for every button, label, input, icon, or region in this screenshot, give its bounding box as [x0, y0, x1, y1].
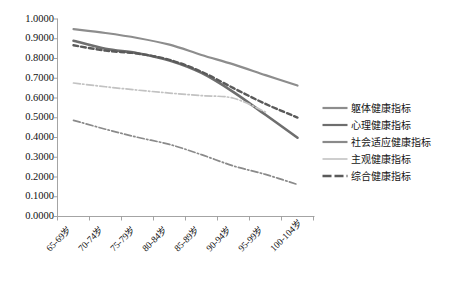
series-line	[74, 29, 298, 85]
legend-line-icon	[322, 136, 348, 148]
legend-item[interactable]: 主观健康指标	[322, 150, 455, 167]
legend-label: 社会适应健康指标	[351, 134, 431, 149]
legend-item[interactable]: 社会适应健康指标	[322, 133, 455, 150]
series-line	[74, 45, 298, 117]
legend-label: 综合健康指标	[351, 168, 411, 183]
legend-line-icon	[322, 119, 348, 131]
series-line	[74, 41, 298, 138]
legend-label: 主观健康指标	[351, 151, 411, 166]
chart-legend: 躯体健康指标心理健康指标社会适应健康指标主观健康指标综合健康指标	[322, 99, 455, 184]
series-line	[74, 120, 298, 184]
legend-item[interactable]: 心理健康指标	[322, 116, 455, 133]
legend-line-icon	[322, 153, 348, 165]
data-series-group	[74, 29, 298, 184]
legend-line-icon	[322, 102, 348, 114]
legend-label: 心理健康指标	[351, 117, 411, 132]
legend-item[interactable]: 综合健康指标	[322, 167, 455, 184]
legend-label: 躯体健康指标	[351, 100, 411, 115]
health-index-line-chart: 1.00000.90000.80000.70000.60000.50000.40…	[0, 0, 457, 283]
series-line	[74, 83, 266, 112]
legend-item[interactable]: 躯体健康指标	[322, 99, 455, 116]
legend-line-icon	[322, 170, 348, 182]
